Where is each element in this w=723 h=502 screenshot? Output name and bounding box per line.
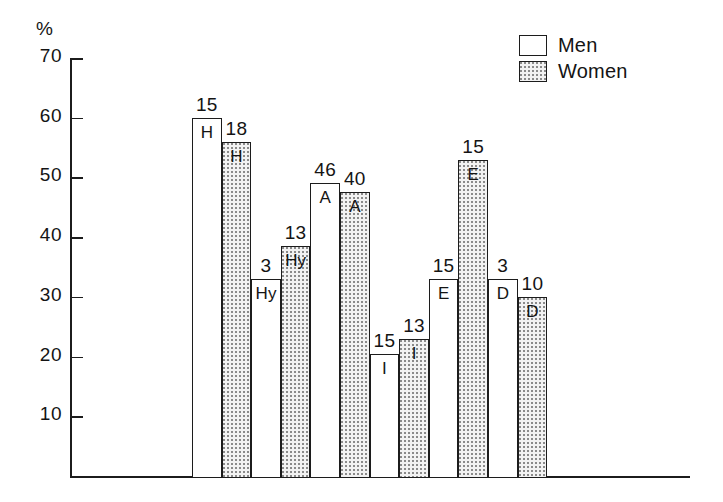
bar-value-label: 10 [522, 273, 544, 295]
y-axis-tick-mark [70, 58, 83, 60]
bar-value-label: 15 [196, 94, 218, 116]
bar-women-h [222, 142, 252, 477]
bar-value-label: 3 [261, 255, 272, 277]
y-axis-tick-mark [70, 237, 83, 239]
bar-code-label: D [497, 284, 509, 304]
bar-code-label: I [382, 359, 387, 379]
legend-item-women: Women [519, 58, 628, 84]
bar-men-e [429, 279, 459, 477]
bar-value-label: 3 [497, 255, 508, 277]
y-axis-tick-label: 20 [16, 344, 62, 366]
bar-code-label: H [201, 123, 213, 143]
bar-code-label: D [526, 302, 538, 322]
y-axis-tick-label: 50 [16, 164, 62, 186]
y-axis-tick-label: 10 [16, 403, 62, 425]
y-axis-tick-mark [70, 357, 83, 359]
y-axis-tick-label: 30 [16, 284, 62, 306]
bar-code-label: I [412, 344, 417, 364]
bar-women-a [340, 192, 370, 477]
y-axis-line [70, 58, 72, 478]
bar-value-label: 18 [226, 118, 248, 140]
y-axis-tick-label: 40 [16, 224, 62, 246]
bar-value-label: 46 [314, 159, 336, 181]
legend-swatch-women [519, 61, 547, 82]
bar-code-label: A [320, 188, 331, 208]
bar-chart: % 70605040302010 15H18H3Hy13Hy46A40A15I1… [0, 0, 723, 502]
bar-code-label: Hy [256, 284, 277, 304]
bar-value-label: 13 [403, 315, 425, 337]
bar-value-label: 40 [344, 168, 366, 190]
bar-code-label: E [468, 165, 479, 185]
bar-women-hy [281, 246, 311, 477]
bar-men-d [488, 279, 518, 477]
y-axis-tick-label: 60 [16, 105, 62, 127]
bar-code-label: A [349, 197, 360, 217]
bar-women-d [518, 297, 548, 477]
bar-code-label: H [230, 147, 242, 167]
bar-men-hy [251, 279, 281, 477]
bar-men-a [310, 183, 340, 477]
bar-men-h [192, 118, 222, 477]
legend-swatch-men [519, 35, 547, 56]
y-axis-tick-mark [70, 118, 83, 120]
y-axis-unit-label: % [36, 18, 53, 40]
y-axis-tick-mark [70, 416, 83, 418]
legend-item-men: Men [519, 32, 628, 58]
y-axis-tick-mark [70, 177, 83, 179]
bar-value-label: 15 [374, 330, 396, 352]
y-axis-tick-mark [70, 297, 83, 299]
bar-value-label: 15 [433, 255, 455, 277]
bar-women-e [458, 160, 488, 477]
chart-legend: MenWomen [519, 32, 628, 84]
bar-code-label: Hy [285, 251, 306, 271]
legend-label: Women [558, 60, 628, 83]
legend-label: Men [558, 34, 598, 57]
bar-value-label: 15 [462, 136, 484, 158]
bar-code-label: E [438, 284, 449, 304]
y-axis-tick-label: 70 [16, 45, 62, 67]
bar-value-label: 13 [285, 222, 307, 244]
